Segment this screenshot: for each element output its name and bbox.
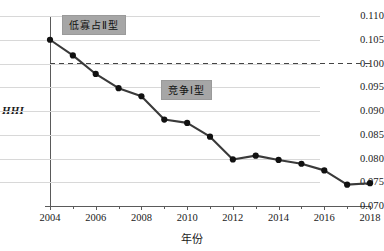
- data-point: [321, 167, 327, 173]
- data-point: [138, 93, 144, 99]
- data-point: [253, 153, 259, 159]
- x-axis-label: 年份: [0, 230, 384, 246]
- data-point: [115, 85, 121, 91]
- plot-area: [0, 0, 384, 251]
- data-point: [93, 71, 99, 77]
- annotation-low-oligopoly-2: 低寡占Ⅱ型: [62, 15, 126, 35]
- data-point: [367, 180, 373, 186]
- data-point: [230, 156, 236, 162]
- data-point: [70, 52, 76, 58]
- data-point: [298, 161, 304, 167]
- data-point: [47, 37, 53, 43]
- annotation-competitive-1: 竞争Ⅰ型: [161, 80, 212, 100]
- data-point: [184, 120, 190, 126]
- chart-container: HHI 0.1100.1050.1000.0950.0900.0850.0800…: [0, 0, 384, 251]
- hhi-trend-line: [50, 40, 370, 185]
- data-point: [161, 116, 167, 122]
- data-point: [344, 182, 350, 188]
- hhi-data-points: [47, 37, 373, 188]
- data-point: [275, 157, 281, 163]
- data-point: [207, 134, 213, 140]
